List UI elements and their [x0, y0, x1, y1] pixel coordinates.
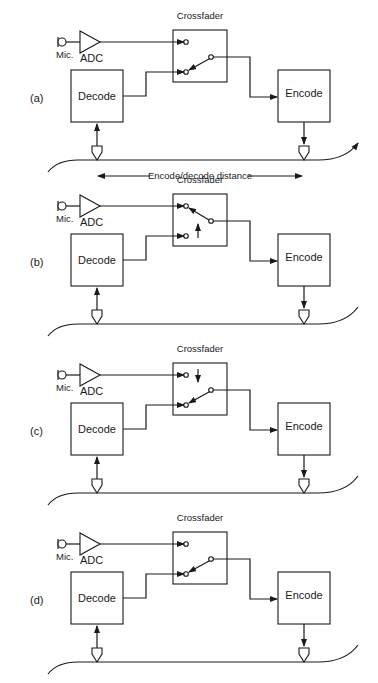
- adc-label: ADC: [80, 52, 103, 64]
- replay-head-icon: [92, 146, 102, 160]
- mic-capsule: [58, 202, 66, 210]
- replay-head-icon: [92, 310, 102, 324]
- mic-label: Mic.: [56, 551, 73, 562]
- mic-terminal: [184, 373, 189, 378]
- record-head-icon: [299, 479, 309, 493]
- mic-label: Mic.: [56, 382, 73, 393]
- replay-head-icon: [92, 648, 102, 662]
- mic-capsule: [58, 371, 66, 379]
- crossfader-box: [173, 194, 227, 246]
- crossfade-diagram: (a)CrossfaderMic.ADCDecodeEncode(b)Cross…: [0, 0, 378, 683]
- distance-label: Encode/decode distance: [148, 170, 252, 181]
- mic-terminal: [184, 204, 189, 209]
- adc-icon: [80, 195, 100, 217]
- decode-terminal: [184, 572, 189, 577]
- encode-label: Encode: [285, 589, 322, 601]
- panel-c: (c)CrossfaderMic.ADCDecodeEncode: [30, 343, 358, 505]
- decode-label: Decode: [78, 254, 116, 266]
- panel-label: (a): [30, 92, 43, 104]
- panel-label: (d): [30, 594, 43, 606]
- mic-capsule: [58, 38, 66, 46]
- crossfader-box: [173, 30, 227, 82]
- adc-label: ADC: [80, 554, 103, 566]
- output-terminal: [209, 55, 214, 60]
- panel-label: (b): [30, 256, 43, 268]
- crossfader-label: Crossfader: [177, 512, 223, 523]
- crossfader-box: [173, 363, 227, 415]
- encode-label: Encode: [285, 420, 322, 432]
- adc-label: ADC: [80, 385, 103, 397]
- panel-label: (c): [30, 425, 43, 437]
- adc-icon: [80, 31, 100, 53]
- decode-label: Decode: [78, 423, 116, 435]
- output-terminal: [209, 388, 214, 393]
- panel-a: (a)CrossfaderMic.ADCDecodeEncode: [30, 10, 358, 172]
- decode-label: Decode: [78, 592, 116, 604]
- decode-terminal: [184, 234, 189, 239]
- encode-label: Encode: [285, 87, 322, 99]
- encode-label: Encode: [285, 251, 322, 263]
- crossfader-label: Crossfader: [177, 10, 223, 21]
- crossfader-label: Crossfader: [177, 343, 223, 354]
- replay-head-icon: [92, 479, 102, 493]
- record-head-icon: [299, 310, 309, 324]
- record-head-icon: [299, 648, 309, 662]
- mic-terminal: [184, 40, 189, 45]
- decode-label: Decode: [78, 90, 116, 102]
- decode-terminal: [184, 70, 189, 75]
- adc-icon: [80, 533, 100, 555]
- panel-b: (b)CrossfaderMic.ADCDecodeEncode: [30, 174, 358, 336]
- panel-d: (d)CrossfaderMic.ADCDecodeEncode: [30, 512, 358, 674]
- crossfader-box: [173, 532, 227, 584]
- adc-icon: [80, 364, 100, 386]
- mic-terminal: [184, 542, 189, 547]
- mic-label: Mic.: [56, 213, 73, 224]
- encode-decode-distance: Encode/decode distance: [98, 170, 302, 181]
- output-terminal: [209, 557, 214, 562]
- decode-terminal: [184, 403, 189, 408]
- mic-capsule: [58, 540, 66, 548]
- adc-label: ADC: [80, 216, 103, 228]
- output-terminal: [209, 219, 214, 224]
- mic-label: Mic.: [56, 49, 73, 60]
- record-head-icon: [299, 146, 309, 160]
